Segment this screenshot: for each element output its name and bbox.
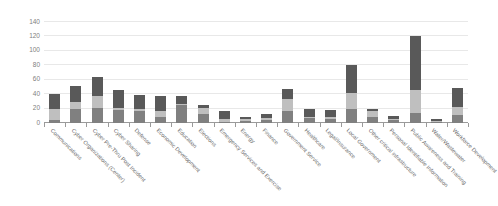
bar[interactable]: [325, 110, 336, 123]
x-axis-label: Defense: [133, 128, 152, 147]
plot-area: 020406080100120140: [44, 22, 468, 123]
x-axis-tick: [404, 123, 405, 127]
y-axis-tick-label: 100: [29, 47, 40, 54]
bar-segment-series_1: [452, 115, 463, 123]
bar-slot: [404, 22, 425, 123]
x-axis-tick: [192, 123, 193, 127]
x-axis-tick: [298, 123, 299, 127]
y-axis-tick-label: 0: [36, 119, 40, 126]
bar-segment-series_2: [410, 90, 421, 113]
bar[interactable]: [261, 114, 272, 123]
bar-segment-series_2: [49, 109, 60, 121]
bar-segment-series_3: [92, 77, 103, 96]
x-axis-tick: [214, 123, 215, 127]
x-axis-tick: [362, 123, 363, 127]
bar-slot: [235, 22, 256, 123]
bar-segment-series_2: [452, 107, 463, 115]
y-axis-tick-label: 40: [33, 90, 40, 97]
bar-segment-series_3: [113, 90, 124, 108]
bar-segment-series_3: [176, 96, 187, 104]
bar-slot: [256, 22, 277, 123]
bar[interactable]: [155, 96, 166, 123]
bar[interactable]: [92, 77, 103, 123]
x-axis-ticks: [44, 123, 468, 127]
bar-segment-series_3: [49, 94, 60, 108]
bar-slot: [320, 22, 341, 123]
bar-slot: [171, 22, 192, 123]
bar-segment-series_3: [134, 95, 145, 109]
x-axis-category-labels: CommunicationsCyber Organizations (Cente…: [44, 128, 468, 206]
x-axis-tick: [277, 123, 278, 127]
x-axis-label: Energy: [239, 128, 255, 144]
bar-series-group: [44, 22, 468, 123]
bar-segment-series_3: [282, 89, 293, 99]
bar[interactable]: [388, 116, 399, 123]
bar-slot: [65, 22, 86, 123]
y-axis-tick-label: 20: [33, 105, 40, 112]
bar-slot: [426, 22, 447, 123]
bar[interactable]: [134, 95, 145, 123]
bar-segment-series_3: [410, 36, 421, 89]
bar-slot: [362, 22, 383, 123]
x-axis-tick: [426, 123, 427, 127]
x-axis-tick: [108, 123, 109, 127]
bar-segment-series_1: [113, 110, 124, 123]
bar-segment-series_3: [155, 96, 166, 111]
bar-slot: [447, 22, 468, 123]
x-axis-tick: [65, 123, 66, 127]
bar[interactable]: [282, 89, 293, 123]
x-axis-label: Elections: [197, 128, 217, 148]
bar[interactable]: [304, 109, 315, 123]
x-axis-label: Government Service: [282, 128, 322, 168]
bar-segment-series_2: [92, 96, 103, 108]
y-axis-tick-label: 120: [29, 33, 40, 40]
bar[interactable]: [219, 111, 230, 123]
bar-segment-series_1: [70, 109, 81, 123]
bar[interactable]: [410, 36, 421, 123]
bar[interactable]: [198, 105, 209, 123]
x-axis-tick: [235, 123, 236, 127]
bar-segment-series_1: [92, 108, 103, 123]
bar-slot: [298, 22, 319, 123]
x-axis-tick: [447, 123, 448, 127]
bar-slot: [341, 22, 362, 123]
bar[interactable]: [452, 88, 463, 123]
bar-segment-series_1: [134, 111, 145, 123]
x-axis-tick: [129, 123, 130, 127]
bar-slot: [277, 22, 298, 123]
bar-segment-series_1: [282, 111, 293, 123]
bar-slot: [192, 22, 213, 123]
bar[interactable]: [70, 86, 81, 123]
bar-slot: [86, 22, 107, 123]
bar-segment-series_3: [452, 88, 463, 107]
bar-slot: [108, 22, 129, 123]
x-axis-tick: [86, 123, 87, 127]
bar-slot: [150, 22, 171, 123]
bar[interactable]: [176, 96, 187, 123]
x-axis-label: Economic Development: [155, 128, 201, 174]
bar[interactable]: [367, 109, 378, 123]
x-axis-tick: [341, 123, 342, 127]
bar-slot: [383, 22, 404, 123]
bar-segment-series_1: [410, 113, 421, 123]
x-axis-tick: [44, 123, 45, 127]
bar[interactable]: [346, 65, 357, 123]
bar-slot: [44, 22, 65, 123]
x-axis-tick: [383, 123, 384, 127]
y-axis-tick-label: 60: [33, 76, 40, 83]
bar-segment-series_1: [176, 105, 187, 123]
x-axis-label: Finance: [261, 128, 279, 146]
bar[interactable]: [113, 90, 124, 123]
bar-segment-series_1: [198, 114, 209, 123]
bar-segment-series_3: [304, 109, 315, 117]
x-axis-tick: [171, 123, 172, 127]
bar-segment-series_2: [346, 93, 357, 110]
x-axis-tick: [468, 123, 469, 127]
bar-segment-series_3: [219, 111, 230, 118]
bar-segment-series_3: [70, 86, 81, 102]
bar-slot: [214, 22, 235, 123]
x-axis-tick: [320, 123, 321, 127]
bar[interactable]: [49, 94, 60, 123]
bar-segment-series_3: [346, 65, 357, 92]
